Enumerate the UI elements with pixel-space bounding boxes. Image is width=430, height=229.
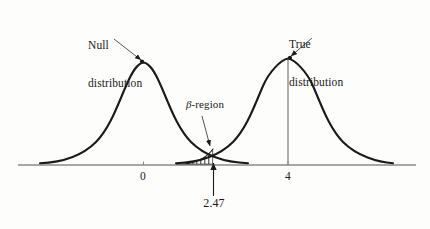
true-distribution-label-line2: distribution xyxy=(289,76,343,89)
statistics-figure: Null distribution True distribution β-re… xyxy=(0,0,430,229)
beta-region-label-text: -region xyxy=(192,98,224,110)
null-distribution-label: Null distribution xyxy=(88,13,142,116)
x-tick-label-4: 4 xyxy=(273,170,303,183)
distribution-plot xyxy=(0,0,430,229)
null-distribution-label-line2: distribution xyxy=(88,77,142,90)
critical-value-label: 2.47 xyxy=(193,197,235,210)
null-distribution-curve xyxy=(40,63,248,164)
x-tick-label-0: 0 xyxy=(128,170,158,183)
null-distribution-label-line1: Null xyxy=(88,39,142,52)
true-distribution-label-line1: True xyxy=(289,38,343,51)
true-distribution-curve xyxy=(176,59,393,164)
beta-region-label: β-region xyxy=(186,98,224,110)
true-distribution-label: True distribution xyxy=(289,12,343,115)
beta-label-leader-line xyxy=(202,116,210,146)
